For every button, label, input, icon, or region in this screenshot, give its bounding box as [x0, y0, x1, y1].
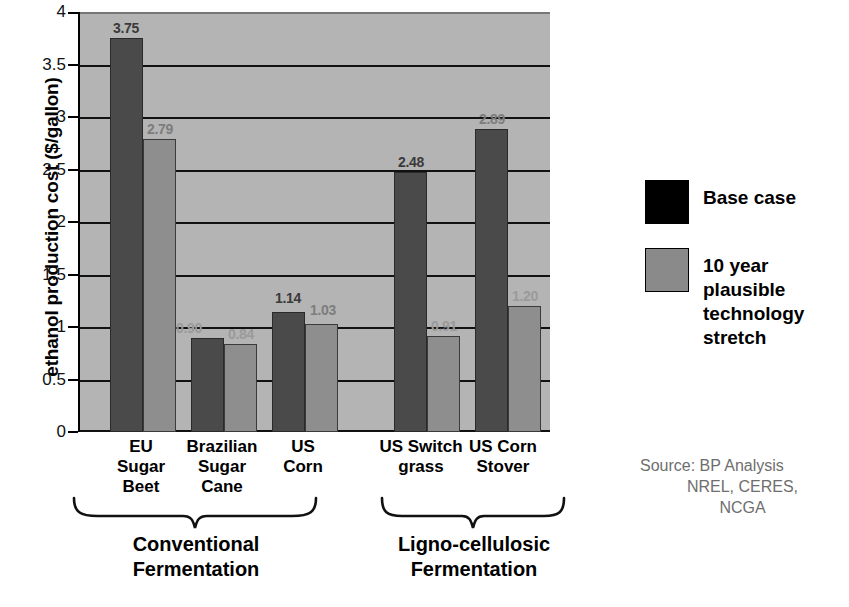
bar-label-us-switchgrass-stretch: 0.91	[431, 318, 457, 334]
y-tick-mark-0-5	[68, 379, 78, 381]
x-label-line: US Switch	[379, 437, 462, 457]
bar-label-us-switchgrass-base: 2.48	[398, 154, 424, 170]
bar-brazilian-sugar-cane-base	[191, 338, 224, 433]
source-line: NREL, CERES,	[640, 476, 845, 497]
x-label-brazilian-sugar-cane: Brazilian Sugar Cane	[187, 437, 258, 497]
group-label-line: Fermentation	[133, 557, 260, 582]
bar-us-corn-stover-stretch	[508, 306, 541, 432]
y-tick-mark-3	[68, 116, 78, 118]
x-label-line: US Corn	[469, 437, 537, 457]
bar-label-eu-sugar-beet-stretch: 2.79	[147, 121, 173, 137]
source-line: Source: BP Analysis	[640, 455, 845, 476]
y-axis: 0 0.5 1 1.5 2 2.5 3 3.5 4	[0, 12, 78, 432]
x-label-line: US	[283, 437, 323, 457]
x-label-line: Beet	[117, 477, 165, 497]
legend-item-base-case: Base case	[645, 180, 845, 224]
legend-label-technology-stretch: 10 year plausible technology stretch	[703, 248, 804, 350]
x-label-eu-sugar-beet: EU Sugar Beet	[117, 437, 165, 497]
legend-label-line: plausible	[703, 278, 804, 302]
bar-label-us-corn-stover-stretch: 1.20	[512, 288, 538, 304]
y-tick-mark-2	[68, 221, 78, 223]
x-label-line: Stover	[469, 457, 537, 477]
source-note: Source: BP Analysis NREL, CERES, NCGA	[640, 455, 845, 518]
x-axis-labels: EU Sugar Beet Brazilian Sugar Cane US Co…	[78, 437, 548, 499]
bar-us-switchgrass-base	[394, 172, 427, 432]
legend-item-technology-stretch: 10 year plausible technology stretch	[645, 248, 845, 350]
bar-brazilian-sugar-cane-stretch	[224, 344, 257, 432]
bar-us-switchgrass-stretch	[427, 336, 460, 432]
brace-ligno-cellulosic	[378, 496, 568, 530]
y-tick-mark-3-5	[68, 64, 78, 66]
y-tick-mark-2-5	[68, 169, 78, 171]
x-label-line: Sugar	[187, 457, 258, 477]
group-label-conventional: Conventional Fermentation	[133, 532, 260, 582]
plot-top-border	[80, 12, 550, 14]
chart-legend: Base case 10 year plausible technology s…	[645, 180, 845, 374]
group-label-line: Conventional	[133, 532, 260, 557]
legend-swatch-technology-stretch	[645, 248, 689, 292]
legend-label-line: 10 year	[703, 254, 804, 278]
x-label-line: Corn	[283, 457, 323, 477]
legend-label-line: technology	[703, 302, 804, 326]
x-label-us-corn: US Corn	[283, 437, 323, 477]
bar-label-brazilian-sugar-cane-stretch: 0.84	[228, 326, 254, 342]
group-label-ligno-cellulosic: Ligno-cellulosic Fermentation	[398, 532, 550, 582]
x-label-line: Sugar	[117, 457, 165, 477]
bar-label-us-corn-base: 1.14	[275, 290, 301, 306]
bar-label-us-corn-stover-base: 2.89	[479, 111, 505, 127]
legend-swatch-base-case	[645, 180, 689, 224]
brace-conventional	[70, 496, 320, 530]
group-label-line: Ligno-cellulosic	[398, 532, 550, 557]
legend-label-base-case: Base case	[703, 180, 796, 210]
y-tick-mark-1	[68, 326, 78, 328]
x-label-line: Cane	[187, 477, 258, 497]
x-label-line: EU	[117, 437, 165, 457]
bar-label-us-corn-stretch: 1.03	[310, 302, 336, 318]
y-tick-mark-0	[68, 431, 78, 433]
x-label-line: grass	[379, 457, 462, 477]
bar-label-eu-sugar-beet-base: 3.75	[113, 20, 139, 36]
bar-us-corn-stover-base	[475, 129, 508, 432]
chart-figure: ethanol production cost ($/gallon) 0 0.5…	[0, 0, 849, 607]
y-tick-mark-4	[68, 12, 78, 14]
gridline-3-5	[80, 65, 550, 67]
bar-eu-sugar-beet-base	[110, 38, 143, 432]
source-line: NCGA	[640, 497, 845, 518]
group-label-line: Fermentation	[398, 557, 550, 582]
bar-us-corn-base	[272, 312, 305, 432]
x-label-us-corn-stover: US Corn Stover	[469, 437, 537, 477]
bar-label-brazilian-sugar-cane-base: 0.90	[176, 320, 202, 336]
plot-area: 3.75 2.79 0.90 0.84 1.14 1.03 2.48 0.91 …	[78, 12, 550, 432]
bar-eu-sugar-beet-stretch	[143, 139, 176, 432]
bar-us-corn-stretch	[305, 324, 338, 432]
legend-label-line: stretch	[703, 326, 804, 350]
y-tick-mark-1-5	[68, 274, 78, 276]
x-label-us-switchgrass: US Switch grass	[379, 437, 462, 477]
x-label-line: Brazilian	[187, 437, 258, 457]
